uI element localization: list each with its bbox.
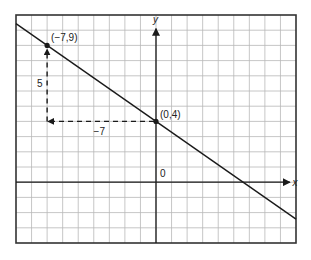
rise-label: 5 [37, 78, 43, 89]
run-label: −7 [94, 126, 106, 137]
y-axis-label: y [152, 14, 159, 25]
x-axis-label: x [292, 177, 299, 188]
point-0-4 [153, 119, 158, 124]
coordinate-graph: x y 0 5 −7 (−7,9) (0,4) [0, 0, 311, 260]
point-label-0-4: (0,4) [160, 109, 181, 120]
point-label-neg7-9: (−7,9) [51, 32, 77, 43]
point-neg7-9 [45, 43, 50, 48]
origin-label: 0 [160, 168, 166, 179]
